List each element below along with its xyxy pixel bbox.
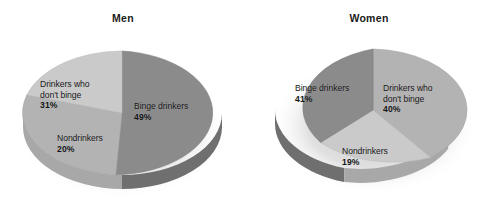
slice-label-women-binge: Binge drinkers 41% <box>295 83 349 104</box>
slice-label-percent: 41% <box>295 94 349 105</box>
slice-label-women-nondrinkers: Nondrinkers 19% <box>342 146 388 167</box>
slice-label-men-dontbinge: Drinkers who don't binge 31% <box>40 79 90 111</box>
slice-label-text-line2: don't binge <box>40 90 90 101</box>
slice-label-men-binge: Binge drinkers 49% <box>134 101 188 122</box>
chart-panel-women: Women Binge drin <box>246 0 492 216</box>
slice-label-women-dontbinge: Drinkers who don't binge 40% <box>383 83 433 115</box>
chart-panel-men: Men Drink <box>0 0 246 216</box>
slice-label-text: Drinkers who <box>383 83 433 94</box>
slice-label-text: Binge drinkers <box>134 101 188 112</box>
pie-chart-figure: Men Drink <box>0 0 492 216</box>
slice-label-percent: 49% <box>134 112 188 123</box>
slice-label-text: Binge drinkers <box>295 83 349 94</box>
pie-chart-men <box>0 0 246 216</box>
slice-label-percent: 19% <box>342 157 388 168</box>
slice-label-men-nondrinkers: Nondrinkers 20% <box>57 133 103 154</box>
slice-label-percent: 31% <box>40 100 90 111</box>
slice-label-text: Nondrinkers <box>57 133 103 144</box>
slice-label-text: Nondrinkers <box>342 146 388 157</box>
slice-label-percent: 20% <box>57 144 103 155</box>
pie-chart-women <box>246 0 492 216</box>
slice-label-text-line2: don't binge <box>383 94 433 105</box>
slice-label-text: Drinkers who <box>40 79 90 90</box>
slice-label-percent: 40% <box>383 104 433 115</box>
